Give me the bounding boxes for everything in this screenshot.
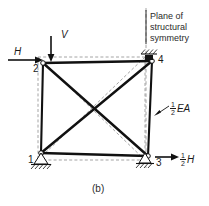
member-label-leader xyxy=(154,106,169,116)
reaction-half-H-label: 1 2 H xyxy=(180,152,194,168)
support-node-1-triangle xyxy=(34,153,48,164)
reaction-denominator: 2 xyxy=(180,159,186,167)
member-1-2 xyxy=(41,63,43,153)
truss-members xyxy=(41,61,152,156)
support-node-1 xyxy=(31,153,51,169)
member-stiffness-numerator: 1 xyxy=(170,101,176,108)
node-3-label: 3 xyxy=(156,158,162,168)
symmetry-note: Plane of structural symmetry xyxy=(150,12,189,45)
node-1-label: 1 xyxy=(28,155,34,165)
symmetry-note-line1: Plane of xyxy=(150,12,189,21)
member-3-4 xyxy=(148,61,152,156)
node-2-label: 2 xyxy=(33,64,39,74)
support-node-4-hatching xyxy=(141,50,157,55)
figure-caption: (b) xyxy=(92,184,104,194)
support-node-3-hatching xyxy=(136,164,152,169)
member-1-3 xyxy=(41,153,148,156)
load-V-label: V xyxy=(61,30,68,40)
member-stiffness-label: 1 2 EA xyxy=(170,101,190,117)
member-stiffness-symbol: EA xyxy=(177,103,190,114)
reaction-fraction: 1 2 xyxy=(180,152,186,168)
reaction-numerator: 1 xyxy=(180,152,186,159)
node-4-label: 4 xyxy=(158,55,164,65)
symmetry-note-line2: structural xyxy=(150,23,189,32)
reaction-symbol: H xyxy=(187,154,194,165)
load-V-arrow xyxy=(48,36,55,62)
node-2-joint xyxy=(41,61,46,66)
member-2-4 xyxy=(43,61,152,63)
load-H-label: H xyxy=(14,47,21,57)
member-stiffness-fraction: 1 2 xyxy=(170,101,176,117)
symmetry-note-line3: symmetry xyxy=(150,34,189,43)
support-node-1-hatching xyxy=(31,165,51,170)
support-node-4-block xyxy=(145,55,153,60)
member-stiffness-denominator: 2 xyxy=(170,108,176,116)
